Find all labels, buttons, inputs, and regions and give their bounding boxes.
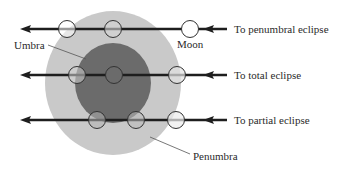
lunar-eclipse-diagram: To penumbral eclipse To total eclipse To…	[0, 0, 345, 173]
moon-circle	[182, 21, 199, 38]
moon-circle	[69, 67, 86, 84]
moon-circle	[128, 112, 145, 129]
moon-circle	[105, 21, 122, 38]
path-label: To partial eclipse	[234, 114, 310, 126]
path-label: To total eclipse	[234, 69, 301, 81]
umbra-label: Umbra	[14, 39, 45, 51]
path-penumbral-eclipse: To penumbral eclipse	[20, 21, 329, 38]
moon-circle	[89, 112, 106, 129]
moon-label: Moon	[177, 38, 204, 50]
path-label: To penumbral eclipse	[234, 23, 329, 35]
moon-circle	[106, 67, 123, 84]
moon-circle	[169, 67, 186, 84]
moon-circle	[168, 112, 185, 129]
moon-circle	[59, 21, 76, 38]
penumbra-leader-line	[150, 137, 190, 154]
penumbra-label: Penumbra	[193, 150, 238, 162]
